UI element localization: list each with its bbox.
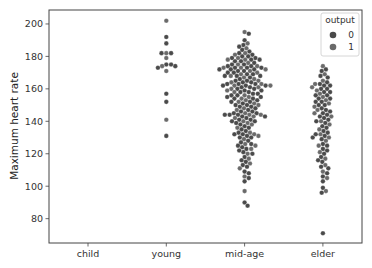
data-point-elder [318, 74, 323, 79]
data-point-mid-age [225, 95, 230, 100]
data-point-elder [327, 101, 332, 106]
y-tick-label: 120 [25, 148, 43, 159]
data-point-young [160, 64, 165, 69]
data-point-young [164, 62, 169, 67]
data-point-mid-age [245, 203, 250, 208]
data-point-young [164, 91, 169, 96]
data-point-young [164, 35, 169, 40]
data-point-elder [316, 158, 321, 163]
y-axis-label: Maximum heart rate [8, 72, 20, 180]
data-point-mid-age [239, 158, 244, 163]
legend-marker-0-icon [330, 32, 337, 39]
data-point-young [164, 18, 169, 23]
data-point-elder [325, 143, 330, 148]
swarm-plot-figure: 80100120140160180200 childyoungmid-ageel… [0, 0, 372, 268]
data-point-mid-age [253, 143, 258, 148]
data-point-mid-age [256, 134, 261, 139]
data-point-mid-age [223, 113, 228, 118]
data-point-mid-age [245, 78, 250, 83]
data-point-elder [319, 164, 324, 169]
data-point-elder [319, 119, 324, 124]
data-point-mid-age [229, 100, 234, 105]
data-point-mid-age [242, 174, 247, 179]
data-point-mid-age [238, 135, 243, 140]
data-point-mid-age [242, 179, 247, 184]
data-point-elder [328, 96, 333, 101]
data-point-elder [319, 137, 324, 142]
data-point-elder [324, 189, 329, 194]
data-point-mid-age [227, 113, 232, 118]
data-point-mid-age [245, 41, 250, 46]
data-point-mid-age [247, 31, 252, 36]
data-point-mid-age [229, 74, 234, 79]
y-tick-label: 140 [25, 116, 43, 127]
data-point-elder [321, 169, 326, 174]
data-point-mid-age [236, 143, 241, 148]
data-point-mid-age [245, 164, 250, 169]
data-point-mid-age [232, 111, 237, 116]
data-point-mid-age [263, 83, 268, 88]
data-point-young [164, 134, 169, 139]
data-point-young [164, 56, 169, 61]
data-point-mid-age [226, 57, 231, 62]
data-point-elder [319, 106, 324, 111]
y-tick-label: 80 [31, 213, 43, 224]
data-point-elder [316, 143, 321, 148]
data-point-elder [310, 85, 315, 90]
data-point-elder [318, 132, 323, 137]
data-point-mid-age [263, 67, 268, 72]
data-point-mid-age [247, 90, 252, 95]
data-point-mid-age [244, 83, 249, 88]
data-point-elder [325, 75, 330, 80]
data-point-young [164, 41, 169, 46]
x-tick-label-young: young [152, 248, 182, 259]
data-point-young [173, 64, 178, 69]
data-point-mid-age [230, 119, 235, 124]
legend: output 0 1 [321, 13, 359, 56]
data-point-elder [321, 179, 326, 184]
data-point-mid-age [250, 151, 255, 156]
data-point-mid-age [259, 65, 264, 70]
data-point-mid-age [247, 171, 252, 176]
data-point-elder [324, 67, 329, 72]
data-point-mid-age [259, 88, 264, 93]
data-point-mid-age [237, 148, 242, 153]
data-point-young [164, 117, 169, 122]
data-point-mid-age [259, 113, 264, 118]
data-point-mid-age [221, 83, 226, 88]
data-point-mid-age [241, 150, 246, 155]
legend-marker-1-icon [330, 44, 337, 51]
legend-label-0: 0 [348, 30, 354, 40]
y-tick-label: 100 [25, 181, 43, 192]
data-point-mid-age [242, 189, 247, 194]
data-point-mid-age [249, 142, 254, 147]
data-point-elder [326, 166, 331, 171]
data-point-mid-age [268, 83, 273, 88]
data-point-mid-age [225, 82, 230, 87]
y-tick-label: 200 [25, 18, 43, 29]
data-point-mid-age [236, 130, 241, 135]
data-point-young [159, 51, 164, 56]
data-point-mid-age [223, 74, 228, 79]
x-tick-label-mid-age: mid-age [225, 248, 264, 259]
data-point-young [156, 65, 161, 70]
data-point-elder [312, 111, 317, 116]
data-point-mid-age [242, 88, 247, 93]
data-point-mid-age [238, 166, 243, 171]
data-point-mid-age [242, 30, 247, 35]
data-point-mid-age [259, 95, 264, 100]
data-point-mid-age [234, 121, 239, 126]
data-point-young [164, 100, 169, 105]
data-point-young [169, 62, 174, 67]
data-point-mid-age [263, 114, 268, 119]
data-point-mid-age [257, 57, 262, 62]
data-point-mid-age [252, 87, 257, 92]
data-point-elder [321, 231, 326, 236]
data-point-elder [310, 135, 315, 140]
data-point-young [164, 51, 169, 56]
data-point-young [164, 69, 169, 74]
data-point-mid-age [258, 74, 263, 79]
data-point-mid-age [242, 169, 247, 174]
data-point-mid-age [248, 85, 253, 90]
data-point-elder [321, 142, 326, 147]
